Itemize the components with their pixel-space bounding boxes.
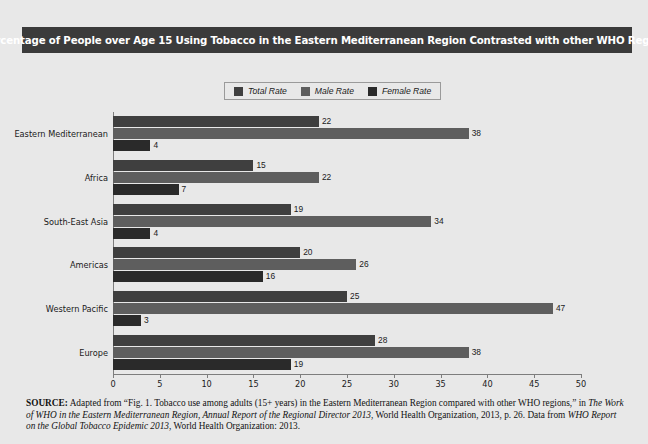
bar[interactable] bbox=[113, 228, 150, 239]
bar[interactable] bbox=[113, 184, 179, 195]
bar[interactable] bbox=[113, 259, 356, 270]
bar[interactable] bbox=[113, 247, 300, 258]
x-tick-label: 10 bbox=[201, 379, 211, 389]
legend-label: Total Rate bbox=[248, 86, 287, 96]
bar[interactable] bbox=[113, 204, 291, 215]
legend-swatch-icon bbox=[234, 87, 243, 96]
bar[interactable] bbox=[113, 303, 553, 314]
bar-group: 25473 bbox=[113, 291, 581, 327]
chart-title-bar: Percentage of People over Age 15 Using T… bbox=[22, 27, 632, 53]
chart-title: Percentage of People over Age 15 Using T… bbox=[0, 35, 648, 46]
bar[interactable] bbox=[113, 271, 263, 282]
bar-row[interactable]: 47 bbox=[113, 303, 581, 314]
bar[interactable] bbox=[113, 315, 141, 326]
legend-entry[interactable]: Total Rate bbox=[234, 86, 287, 96]
bar-row[interactable]: 38 bbox=[113, 128, 581, 139]
bar[interactable] bbox=[113, 172, 319, 183]
x-tick-mark bbox=[581, 374, 582, 378]
bar[interactable] bbox=[113, 347, 469, 358]
bar-value-label: 19 bbox=[291, 359, 303, 370]
x-tick-mark bbox=[441, 374, 442, 378]
category-label: South-East Asia bbox=[44, 217, 108, 227]
legend-entry[interactable]: Female Rate bbox=[368, 86, 431, 96]
bar-row[interactable]: 20 bbox=[113, 247, 581, 258]
source-text-1: Adapted from “Fig. 1. Tobacco use among … bbox=[68, 398, 588, 408]
bar-value-label: 26 bbox=[356, 259, 368, 270]
bar-value-label: 28 bbox=[375, 335, 387, 346]
bar-value-label: 47 bbox=[553, 303, 565, 314]
x-tick-label: 45 bbox=[529, 379, 539, 389]
bar-row[interactable]: 28 bbox=[113, 335, 581, 346]
bar-row[interactable]: 7 bbox=[113, 184, 581, 195]
x-tick-label: 30 bbox=[389, 379, 399, 389]
bar-row[interactable]: 22 bbox=[113, 116, 581, 127]
bar-group: 15227 bbox=[113, 160, 581, 196]
bar[interactable] bbox=[113, 160, 253, 171]
bar-value-label: 16 bbox=[263, 271, 275, 282]
bar-row[interactable]: 34 bbox=[113, 216, 581, 227]
x-tick-mark bbox=[300, 374, 301, 378]
bar-value-label: 38 bbox=[469, 128, 481, 139]
x-tick-mark bbox=[347, 374, 348, 378]
x-tick-mark bbox=[534, 374, 535, 378]
x-axis-ticks: 05101520253035404550 bbox=[113, 374, 581, 392]
x-tick-label: 20 bbox=[295, 379, 305, 389]
x-tick-label: 35 bbox=[435, 379, 445, 389]
bar-row[interactable]: 19 bbox=[113, 359, 581, 370]
legend-swatch-icon bbox=[301, 87, 310, 96]
category-axis-labels: Eastern MediterraneanAfricaSouth-East As… bbox=[0, 112, 108, 374]
source-text-3: , World Health Organization: 2013. bbox=[169, 421, 300, 431]
x-tick-label: 25 bbox=[342, 379, 352, 389]
x-tick-mark bbox=[253, 374, 254, 378]
source-caption: SOURCE: Adapted from “Fig. 1. Tobacco us… bbox=[26, 398, 626, 433]
x-tick-label: 5 bbox=[157, 379, 162, 389]
bar-row[interactable]: 19 bbox=[113, 204, 581, 215]
bar-value-label: 4 bbox=[150, 228, 158, 239]
x-tick-mark bbox=[113, 374, 114, 378]
bar-row[interactable]: 15 bbox=[113, 160, 581, 171]
bar-row[interactable]: 26 bbox=[113, 259, 581, 270]
figure-container: Percentage of People over Age 15 Using T… bbox=[0, 0, 648, 444]
bar[interactable] bbox=[113, 128, 469, 139]
category-label: Western Pacific bbox=[46, 304, 108, 314]
category-label: Europe bbox=[79, 348, 108, 358]
bar-row[interactable]: 4 bbox=[113, 140, 581, 151]
category-label: Americas bbox=[70, 260, 108, 270]
bar[interactable] bbox=[113, 291, 347, 302]
bar-value-label: 22 bbox=[319, 172, 331, 183]
bar-row[interactable]: 38 bbox=[113, 347, 581, 358]
bar-value-label: 7 bbox=[179, 184, 187, 195]
x-tick-mark bbox=[487, 374, 488, 378]
bar-row[interactable]: 22 bbox=[113, 172, 581, 183]
x-tick-label: 15 bbox=[248, 379, 258, 389]
bar-row[interactable]: 16 bbox=[113, 271, 581, 282]
bar[interactable] bbox=[113, 116, 319, 127]
bar-value-label: 34 bbox=[431, 216, 443, 227]
bar-group: 283819 bbox=[113, 335, 581, 371]
bar[interactable] bbox=[113, 216, 431, 227]
bar-row[interactable]: 3 bbox=[113, 315, 581, 326]
bar-value-label: 38 bbox=[469, 347, 481, 358]
x-tick-label: 40 bbox=[482, 379, 492, 389]
x-tick-mark bbox=[394, 374, 395, 378]
legend-entry[interactable]: Male Rate bbox=[301, 86, 354, 96]
bar-value-label: 20 bbox=[300, 247, 312, 258]
category-label: Africa bbox=[85, 173, 108, 183]
category-label: Eastern Mediterranean bbox=[14, 129, 108, 139]
bar[interactable] bbox=[113, 140, 150, 151]
bar[interactable] bbox=[113, 335, 375, 346]
x-tick-label: 50 bbox=[576, 379, 586, 389]
bar-group: 19344 bbox=[113, 204, 581, 240]
x-tick-mark bbox=[207, 374, 208, 378]
bar-value-label: 19 bbox=[291, 204, 303, 215]
x-tick-mark bbox=[160, 374, 161, 378]
bar-value-label: 25 bbox=[347, 291, 359, 302]
source-text-2: , World Health Organization, 2013, p. 26… bbox=[371, 410, 568, 420]
bar-group: 22384 bbox=[113, 116, 581, 152]
bar-row[interactable]: 4 bbox=[113, 228, 581, 239]
legend-label: Female Rate bbox=[382, 86, 431, 96]
bar-value-label: 4 bbox=[150, 140, 158, 151]
bar[interactable] bbox=[113, 359, 291, 370]
bar-value-label: 22 bbox=[319, 116, 331, 127]
bar-row[interactable]: 25 bbox=[113, 291, 581, 302]
